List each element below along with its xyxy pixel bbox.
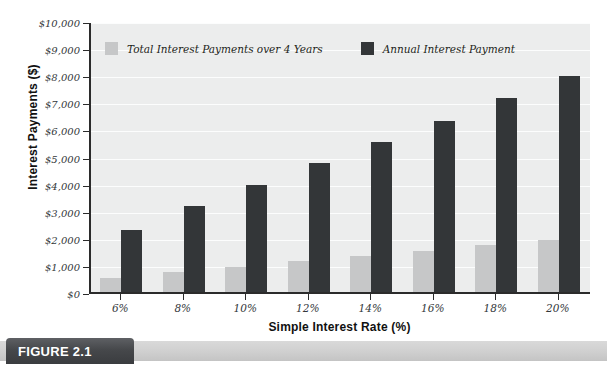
figure-number-label: FIGURE 2.1	[18, 344, 92, 359]
x-axis-tick-label: 20%	[546, 302, 569, 314]
x-axis-tick-label: 10%	[234, 302, 257, 314]
bar-annual-interest	[559, 76, 580, 294]
y-axis-tick-label: $4,000	[45, 180, 80, 191]
y-axis-tick-label: $6,000	[45, 126, 80, 137]
x-axis-tick-label: 8%	[174, 302, 191, 314]
legend-swatch-annual-icon	[361, 42, 374, 55]
bar-total-interest	[350, 256, 371, 294]
y-axis-title: Interest Payments ($)	[26, 2, 40, 252]
x-axis-tick	[558, 294, 559, 300]
bar-annual-interest	[184, 206, 205, 294]
y-axis-tick	[83, 77, 89, 78]
figure-caption-bar: FIGURE 2.1	[0, 338, 607, 366]
x-axis-tick	[495, 294, 496, 300]
legend-item-annual: Annual Interest Payment	[361, 42, 515, 55]
bar-annual-interest	[434, 121, 455, 294]
y-axis-tick-label: $2,000	[45, 234, 80, 245]
bar-total-interest	[413, 251, 434, 294]
y-axis-tick-label: $1,000	[45, 261, 80, 272]
bar-annual-interest	[246, 185, 267, 294]
x-axis-tick-label: 12%	[296, 302, 319, 314]
bar-total-interest	[225, 267, 246, 294]
y-axis-tick-label: $5,000	[45, 153, 80, 164]
x-axis-labels: 6%8%10%12%14%16%18%20%	[89, 294, 590, 320]
bar-annual-interest	[371, 142, 392, 294]
bar-annual-interest	[309, 163, 330, 294]
x-axis-tick	[308, 294, 309, 300]
figure-container: $0$1,000$2,000$3,000$4,000$5,000$6,000$7…	[0, 0, 607, 366]
y-axis-tick	[83, 186, 89, 187]
x-axis-tick	[433, 294, 434, 300]
bar-total-interest	[475, 245, 496, 294]
x-axis-tick	[245, 294, 246, 300]
bar-group	[413, 121, 455, 294]
legend-spacer	[323, 48, 361, 49]
plot-area	[90, 23, 590, 294]
bar-group	[475, 98, 517, 294]
figure-number-tab: FIGURE 2.1	[6, 338, 134, 364]
legend-item-total: Total Interest Payments over 4 Years	[105, 42, 323, 55]
y-axis-tick	[83, 104, 89, 105]
bar-group	[225, 185, 267, 294]
y-axis-tick	[83, 23, 89, 24]
bar-group	[100, 230, 142, 294]
bar-group	[538, 76, 580, 294]
x-axis-tick	[120, 294, 121, 300]
chart-legend: Total Interest Payments over 4 Years Ann…	[105, 42, 515, 55]
x-axis-tick	[370, 294, 371, 300]
x-axis-tick	[183, 294, 184, 300]
bar-annual-interest	[496, 98, 517, 294]
bar-total-interest	[288, 261, 309, 294]
y-axis-tick	[83, 267, 89, 268]
bars-layer	[90, 23, 590, 294]
x-axis-title: Simple Interest Rate (%)	[89, 320, 590, 334]
x-axis-tick-label: 18%	[484, 302, 507, 314]
bar-group	[163, 206, 205, 294]
y-axis-tick-label: $8,000	[45, 72, 80, 83]
bar-total-interest	[163, 272, 184, 294]
bar-group	[288, 163, 330, 294]
x-axis-tick-label: 16%	[421, 302, 444, 314]
x-axis-tick-label: 6%	[112, 302, 129, 314]
legend-swatch-total-icon	[105, 42, 118, 55]
y-axis-line	[89, 23, 91, 294]
y-axis-tick-label: $7,000	[45, 99, 80, 110]
y-axis-labels: $0$1,000$2,000$3,000$4,000$5,000$6,000$7…	[0, 23, 80, 294]
x-axis-tick-label: 14%	[359, 302, 382, 314]
y-axis-tick-label: $10,000	[39, 18, 80, 29]
y-axis-tick	[83, 213, 89, 214]
legend-label-total: Total Interest Payments over 4 Years	[127, 43, 323, 55]
bar-group	[350, 142, 392, 294]
y-axis-tick-label: $3,000	[45, 207, 80, 218]
y-axis-tick-label: $9,000	[45, 45, 80, 56]
bar-annual-interest	[121, 230, 142, 294]
legend-label-annual: Annual Interest Payment	[383, 43, 515, 55]
y-axis-tick	[83, 159, 89, 160]
bar-total-interest	[538, 240, 559, 294]
y-axis-tick	[83, 50, 89, 51]
y-axis-tick	[83, 131, 89, 132]
y-axis-tick	[83, 240, 89, 241]
y-axis-tick-label: $0	[67, 289, 80, 300]
